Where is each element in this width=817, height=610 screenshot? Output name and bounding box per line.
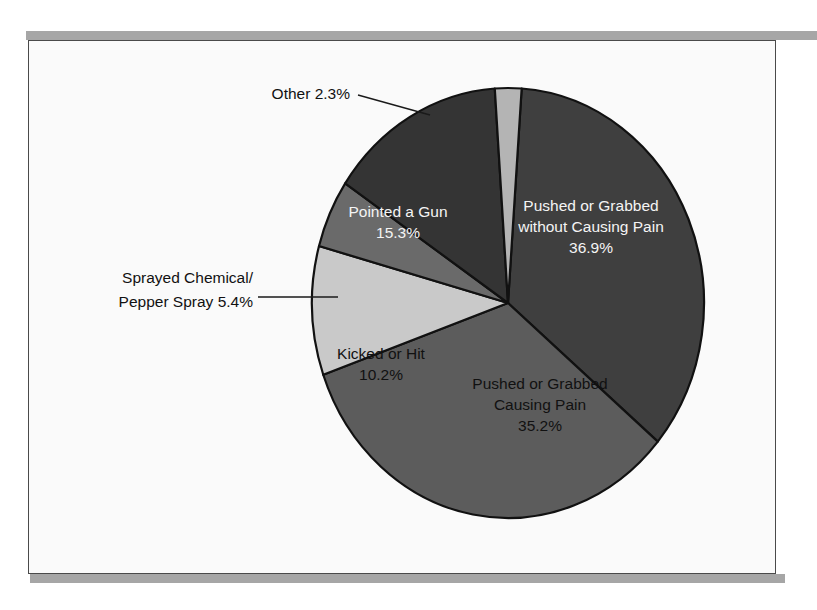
pie-label-line: Pushed or Grabbed [523, 197, 658, 214]
pie-label-sprayed-chemical-pepper-spray: Sprayed Chemical/Pepper Spray 5.4% [119, 269, 254, 310]
pie-label-line: 36.9% [569, 239, 613, 256]
pie-label-line: Pointed a Gun [348, 203, 447, 220]
pie-label-line: 10.2% [359, 366, 403, 383]
pie-label-line: without Causing Pain [517, 218, 664, 235]
pie-label-line: 15.3% [376, 224, 420, 241]
pie-label-line: 35.2% [518, 417, 562, 434]
pie-slices-group [312, 88, 704, 518]
pie-label-other: Other 2.3% [272, 85, 351, 102]
pie-label-line: Causing Pain [494, 396, 586, 413]
pie-label-line: Pushed or Grabbed [472, 375, 607, 392]
leader-line-other [358, 95, 430, 115]
pie-label-line: Pepper Spray 5.4% [119, 293, 254, 310]
pie-chart: Pushed or Grabbedwithout Causing Pain36.… [0, 0, 817, 610]
pie-label-line: Other 2.3% [272, 85, 351, 102]
figure-root: Pushed or Grabbedwithout Causing Pain36.… [0, 0, 817, 610]
pie-label-line: Sprayed Chemical/ [122, 269, 254, 286]
pie-label-line: Kicked or Hit [337, 345, 426, 362]
